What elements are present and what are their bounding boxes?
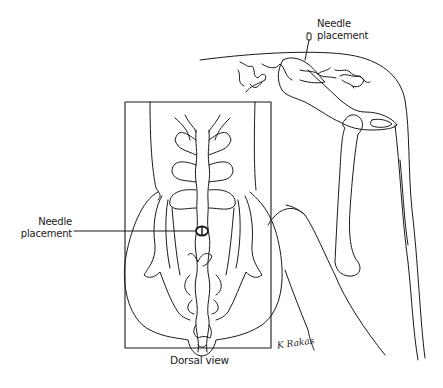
back-contour <box>200 52 425 358</box>
body-left <box>150 102 160 200</box>
figure-caption: Dorsal view <box>170 354 229 366</box>
lateral-vertebrae <box>238 62 370 92</box>
tail-cut <box>400 160 408 245</box>
dorsal-frame <box>125 102 271 348</box>
lateral-vertebrae-2 <box>335 70 364 88</box>
thigh-front <box>268 208 385 355</box>
spine-column <box>195 130 210 352</box>
ilium-left-inner <box>166 200 180 275</box>
rump-contour <box>395 125 418 360</box>
label-line-1: Needle <box>317 18 368 30</box>
needle-placement-label-lateral: Needle placement <box>317 18 368 42</box>
femur <box>335 115 362 276</box>
cranial-vertebrae <box>175 115 230 140</box>
needle-site-dorsal <box>196 227 208 236</box>
ilium-right <box>216 196 262 320</box>
pelvis-outline <box>124 192 282 356</box>
label-line-1: Needle <box>20 216 72 228</box>
transverse-processes <box>170 132 235 209</box>
needle-lateral <box>305 33 311 60</box>
sacrum <box>185 253 222 347</box>
obturator-foramen <box>371 119 393 127</box>
thigh-inner <box>286 205 305 215</box>
needle-placement-label-dorsal: Needle placement <box>20 216 72 240</box>
ilium-right-inner <box>226 200 240 275</box>
ilium-left <box>144 196 190 320</box>
label-line-2: placement <box>20 228 72 240</box>
dorsal-view <box>74 102 282 356</box>
body-right <box>254 102 256 190</box>
label-line-2: placement <box>317 30 368 42</box>
illustration-canvas <box>0 0 443 388</box>
